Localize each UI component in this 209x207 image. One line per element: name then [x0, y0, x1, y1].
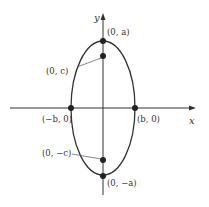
label-right-vertex: (b, 0) — [137, 114, 160, 124]
y-axis-label: y — [93, 12, 100, 23]
point-left-vertex — [68, 105, 74, 111]
label-left-vertex: (−b, 0) — [42, 114, 72, 124]
point-right-vertex — [132, 105, 138, 111]
y-axis-arrow-icon — [101, 13, 106, 20]
x-axis-label: x — [189, 115, 195, 126]
label-bottom-focus: (0, −c) — [42, 148, 71, 158]
point-bottom-vertex — [100, 173, 106, 179]
leader-line-bottom-focus — [72, 154, 101, 159]
label-bottom-vertex: (0, −a) — [107, 178, 137, 188]
point-bottom-focus — [100, 157, 106, 163]
point-top-focus — [100, 53, 106, 59]
label-top-focus: (0, c) — [46, 66, 68, 76]
ellipse-diagram: y x (0, a) (0, c) (−b, 0) (b, 0) (0, −c)… — [0, 0, 209, 207]
point-top-vertex — [100, 38, 106, 44]
x-axis-arrow-icon — [189, 106, 196, 111]
label-top-vertex: (0, a) — [107, 27, 130, 37]
